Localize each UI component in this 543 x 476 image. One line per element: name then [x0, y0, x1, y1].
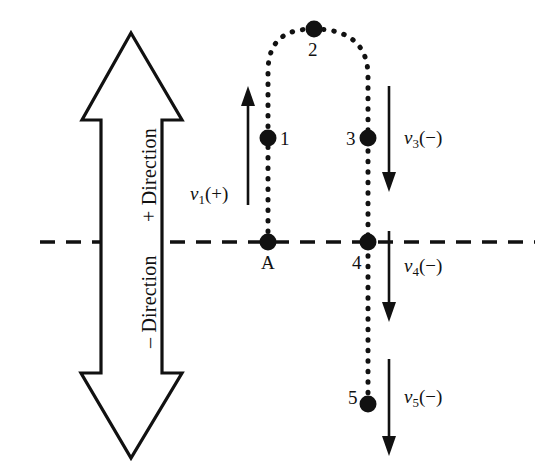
diagram-canvas	[0, 0, 543, 476]
direction-double-arrow	[81, 33, 182, 458]
velocity-arrow-v4	[382, 231, 396, 322]
velocity-sign-v5: (−)	[419, 386, 442, 407]
trajectory-path	[268, 29, 368, 404]
velocity-label-v4: v4(−)	[404, 256, 442, 279]
point-label-5: 5	[348, 388, 358, 407]
velocity-sign-v3: (−)	[419, 127, 442, 148]
point-label-A: A	[261, 253, 275, 272]
point-marker-2	[306, 21, 323, 38]
velocity-sign-v4: (−)	[419, 255, 442, 276]
point-marker-1	[260, 130, 277, 147]
velocity-arrow-v3	[382, 86, 396, 192]
point-label-4: 4	[352, 253, 362, 272]
point-label-3: 3	[346, 129, 356, 148]
velocity-arrow-v5	[382, 359, 396, 456]
point-label-2: 2	[308, 40, 318, 59]
point-marker-A	[260, 234, 277, 251]
velocity-label-v1: v1(+)	[190, 184, 228, 207]
velocity-label-v3: v3(−)	[404, 128, 442, 151]
point-marker-5	[360, 396, 377, 413]
positive-direction-label: + Direction	[139, 128, 159, 222]
physics-diagram: + Direction – Direction A 1 2 3 4 5 v1(+…	[0, 0, 543, 476]
point-marker-4	[360, 234, 377, 251]
point-marker-3	[360, 130, 377, 147]
point-label-1: 1	[280, 129, 290, 148]
negative-direction-label: – Direction	[139, 255, 159, 348]
velocity-sign-v1: (+)	[205, 183, 228, 204]
velocity-label-v5: v5(−)	[404, 387, 442, 410]
velocity-arrow-v1	[241, 86, 255, 205]
